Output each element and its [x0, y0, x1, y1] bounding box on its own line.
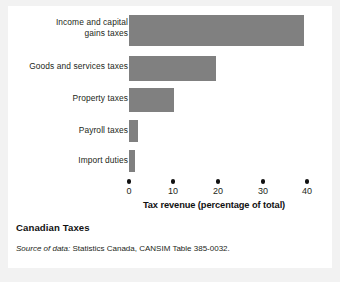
category-label-line: Income and capital: [0, 17, 128, 28]
source-text: Statistics Canada, CANSIM Table 385-0032…: [70, 244, 230, 253]
x-axis-tick-labels: 0 10 20 30 40: [8, 186, 332, 199]
x-axis-tick-markers: [8, 176, 332, 186]
category-label-income-and-capital-gains-taxes: Income and capital gains taxes: [0, 17, 128, 38]
bar-income-and-capital-gains-taxes[interactable]: [129, 15, 304, 46]
bar-goods-and-services-taxes[interactable]: [129, 56, 216, 81]
tick-dot-20: [216, 179, 221, 184]
bar-import-duties[interactable]: [129, 150, 135, 172]
x-tick-label-30: 30: [243, 186, 283, 196]
chart-row: Goods and services taxes: [8, 54, 332, 81]
figure-page: Income and capital gains taxes Goods and…: [0, 0, 340, 282]
figure-source-note: Source of data: Statistics Canada, CANSI…: [16, 244, 230, 253]
tick-dot-40: [305, 179, 310, 184]
x-tick-label-0: 0: [109, 186, 149, 196]
category-label-line: Goods and services taxes: [0, 61, 128, 72]
tick-dot-0: [127, 179, 132, 184]
category-label-line: gains taxes: [0, 28, 128, 39]
tick-dot-10: [171, 179, 176, 184]
category-label-property-taxes: Property taxes: [0, 93, 128, 104]
x-tick-label-40: 40: [287, 186, 327, 196]
chart-row: Income and capital gains taxes: [8, 15, 332, 49]
bar-payroll-taxes[interactable]: [129, 120, 138, 142]
chart-row: Import duties: [8, 149, 332, 174]
bar-chart-plot-area: Income and capital gains taxes Goods and…: [8, 6, 332, 181]
category-label-goods-and-services-taxes: Goods and services taxes: [0, 61, 128, 72]
x-tick-label-20: 20: [198, 186, 238, 196]
x-tick-label-10: 10: [153, 186, 193, 196]
x-axis-title: Tax revenue (percentage of total): [8, 200, 332, 210]
chart-row: Property taxes: [8, 87, 332, 113]
figure-card: Income and capital gains taxes Goods and…: [8, 6, 332, 268]
category-label-payroll-taxes: Payroll taxes: [0, 125, 128, 136]
bar-property-taxes[interactable]: [129, 88, 174, 112]
category-label-line: Property taxes: [0, 93, 128, 104]
category-label-import-duties: Import duties: [0, 155, 128, 166]
figure-caption-title: Canadian Taxes: [16, 222, 90, 233]
source-lead-label: Source of data:: [16, 244, 70, 253]
category-label-line: Payroll taxes: [0, 125, 128, 136]
category-label-line: Import duties: [0, 155, 128, 166]
chart-row: Payroll taxes: [8, 119, 332, 144]
tick-dot-30: [261, 179, 266, 184]
